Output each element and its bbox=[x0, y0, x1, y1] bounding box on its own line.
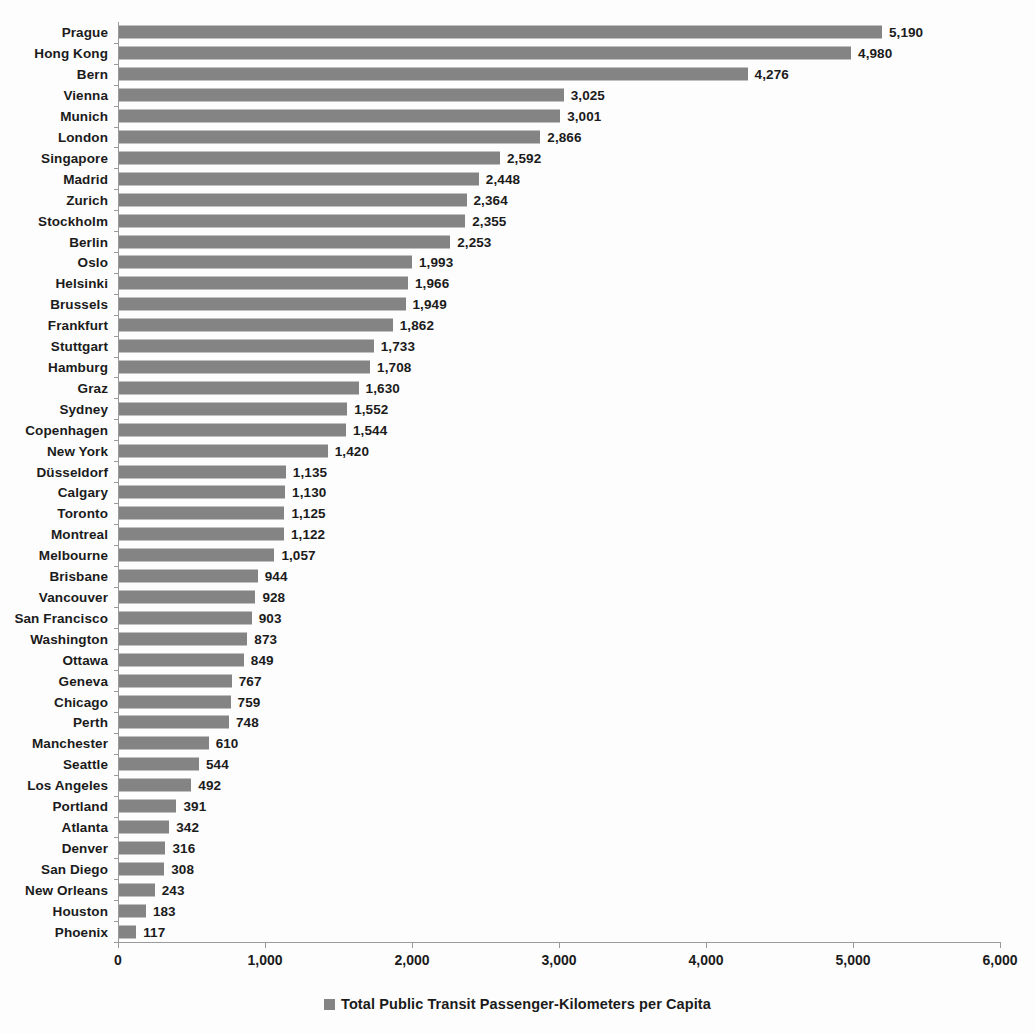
bar bbox=[119, 151, 500, 164]
bar bbox=[119, 674, 232, 687]
bar-row: New York1,420 bbox=[118, 440, 1000, 461]
bar-value-label: 1,630 bbox=[366, 380, 400, 395]
bar-value-label: 1,130 bbox=[292, 485, 326, 500]
bar-value-label: 903 bbox=[259, 610, 282, 625]
bar-row: Frankfurt1,862 bbox=[118, 315, 1000, 336]
value-axis-tick bbox=[412, 942, 413, 948]
bar bbox=[119, 549, 274, 562]
bar bbox=[119, 26, 882, 39]
category-label: Düsseldorf bbox=[36, 464, 108, 479]
bar bbox=[119, 507, 284, 520]
bar-row: Copenhagen1,544 bbox=[118, 419, 1000, 440]
bar bbox=[119, 423, 346, 436]
bar-row: Madrid2,448 bbox=[118, 168, 1000, 189]
category-label: Manchester bbox=[32, 736, 108, 751]
category-label: Houston bbox=[53, 903, 108, 918]
value-axis-tick bbox=[706, 942, 707, 948]
bar bbox=[119, 737, 209, 750]
bar-row: Montreal1,122 bbox=[118, 524, 1000, 545]
bar bbox=[119, 632, 247, 645]
bar bbox=[119, 883, 155, 896]
category-label: Ottawa bbox=[62, 652, 108, 667]
bar bbox=[119, 653, 244, 666]
bar-value-label: 5,190 bbox=[889, 25, 923, 40]
value-axis-tick-label: 1,000 bbox=[247, 952, 282, 968]
bar-value-label: 1,125 bbox=[291, 506, 325, 521]
category-label: Seattle bbox=[63, 757, 108, 772]
bar-row: London2,866 bbox=[118, 127, 1000, 148]
bar-value-label: 1,122 bbox=[291, 527, 325, 542]
value-axis-tick bbox=[265, 942, 266, 948]
bar-row: Hamburg1,708 bbox=[118, 357, 1000, 378]
value-axis-tick-label: 3,000 bbox=[541, 952, 576, 968]
bar-value-label: 4,980 bbox=[858, 46, 892, 61]
bar bbox=[119, 130, 540, 143]
bar bbox=[119, 570, 258, 583]
bar bbox=[119, 862, 164, 875]
category-label: Bern bbox=[77, 67, 108, 82]
bar bbox=[119, 402, 347, 415]
bar bbox=[119, 298, 406, 311]
category-label: Stuttgart bbox=[51, 339, 108, 354]
bar-value-label: 759 bbox=[238, 694, 261, 709]
bar-row: Perth748 bbox=[118, 712, 1000, 733]
category-label: Brisbane bbox=[49, 569, 108, 584]
bar-value-label: 117 bbox=[143, 924, 165, 939]
bar bbox=[119, 590, 255, 603]
category-label: Vienna bbox=[63, 88, 108, 103]
bar-row: New Orleans243 bbox=[118, 879, 1000, 900]
category-label: Hamburg bbox=[48, 359, 108, 374]
value-axis-tick-label: 6,000 bbox=[982, 952, 1017, 968]
category-label: Perth bbox=[73, 715, 108, 730]
bar-value-label: 2,866 bbox=[547, 129, 581, 144]
bar-value-label: 243 bbox=[162, 882, 185, 897]
bar bbox=[119, 319, 393, 332]
category-label: Calgary bbox=[58, 485, 108, 500]
category-label: Madrid bbox=[63, 171, 108, 186]
bar-row: Zurich2,364 bbox=[118, 189, 1000, 210]
bar bbox=[119, 68, 748, 81]
bar-row: Denver316 bbox=[118, 837, 1000, 858]
category-label: Brussels bbox=[50, 297, 108, 312]
legend-swatch-icon bbox=[324, 999, 335, 1010]
bar-value-label: 342 bbox=[176, 819, 199, 834]
value-axis-tick bbox=[1000, 942, 1001, 948]
bar-value-label: 1,733 bbox=[381, 339, 415, 354]
value-axis-tick-label: 4,000 bbox=[688, 952, 723, 968]
bar-row: Düsseldorf1,135 bbox=[118, 461, 1000, 482]
bar bbox=[119, 925, 136, 938]
bar bbox=[119, 360, 370, 373]
bar bbox=[119, 47, 851, 60]
category-label: Zurich bbox=[66, 192, 108, 207]
bar-row: Munich3,001 bbox=[118, 106, 1000, 127]
bar-value-label: 1,862 bbox=[400, 318, 434, 333]
bar-row: Manchester610 bbox=[118, 733, 1000, 754]
bar-value-label: 928 bbox=[262, 589, 285, 604]
category-label: New York bbox=[47, 443, 108, 458]
category-label: San Francisco bbox=[14, 610, 108, 625]
category-label: Denver bbox=[62, 840, 108, 855]
bar-row: Los Angeles492 bbox=[118, 775, 1000, 796]
bar-value-label: 1,966 bbox=[415, 276, 449, 291]
category-label: Portland bbox=[52, 799, 108, 814]
category-label: Stockholm bbox=[38, 213, 108, 228]
bar-row: Berlin2,253 bbox=[118, 231, 1000, 252]
bar-value-label: 610 bbox=[216, 736, 239, 751]
bar-row: Ottawa849 bbox=[118, 649, 1000, 670]
plot-area: Prague5,190Hong Kong4,980Bern4,276Vienna… bbox=[118, 22, 1000, 942]
bar bbox=[119, 214, 465, 227]
bar-value-label: 873 bbox=[254, 631, 277, 646]
bar-value-label: 1,135 bbox=[293, 464, 327, 479]
bar-row: Washington873 bbox=[118, 628, 1000, 649]
bar-value-label: 308 bbox=[171, 861, 194, 876]
bar bbox=[119, 695, 231, 708]
category-label: New Orleans bbox=[25, 882, 108, 897]
category-label: Toronto bbox=[57, 506, 108, 521]
bar-value-label: 391 bbox=[183, 799, 206, 814]
bar-value-label: 849 bbox=[251, 652, 274, 667]
bar-row: Melbourne1,057 bbox=[118, 545, 1000, 566]
category-label: Hong Kong bbox=[34, 46, 108, 61]
category-label: Melbourne bbox=[39, 548, 108, 563]
category-label: Copenhagen bbox=[25, 422, 108, 437]
bar-row: Brisbane944 bbox=[118, 566, 1000, 587]
